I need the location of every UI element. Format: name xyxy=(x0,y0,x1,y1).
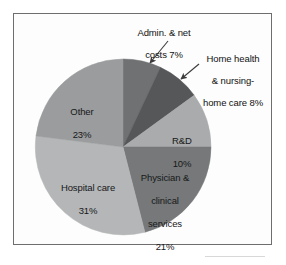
scan-artifact xyxy=(205,256,265,257)
admin-callout-line2: costs 7% xyxy=(145,49,183,60)
home-callout-line2: & nursing- xyxy=(212,75,254,86)
hospital-value: 31% xyxy=(79,205,98,216)
hospital-name: Hospital care xyxy=(61,182,115,193)
slice-label-hospital-care: Hospital care 31% xyxy=(46,170,130,216)
physician-line2: clinical xyxy=(151,195,179,206)
other-value: 23% xyxy=(73,129,92,140)
physician-line1: Physician & xyxy=(141,172,190,183)
home-callout-line3: home care 8% xyxy=(203,97,263,108)
rd-name: R&D xyxy=(172,135,192,146)
other-name: Other xyxy=(70,106,93,117)
slice-label-physician-clinical-services: Physician & clinical services 21% xyxy=(134,160,196,252)
callout-label-home-health: Home health & nursing- home care 8% xyxy=(190,42,276,108)
pie-chart-screenshot: Admin. & net costs 7% Home health & nurs… xyxy=(0,0,286,265)
physician-value: 21% xyxy=(156,241,175,252)
physician-line3: services xyxy=(148,218,182,229)
slice-label-other: Other 23% xyxy=(56,94,108,140)
home-callout-line1: Home health xyxy=(207,53,260,64)
admin-callout-line1: Admin. & net xyxy=(137,27,190,38)
